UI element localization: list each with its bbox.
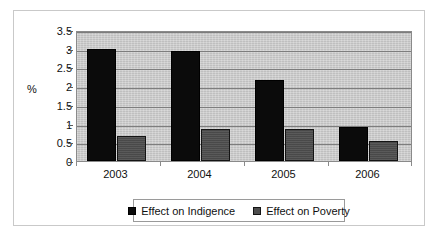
gridline: [77, 107, 411, 108]
y-tick-mark: [68, 162, 73, 163]
gridline: [77, 51, 411, 52]
chart-legend: Effect on IndigenceEffect on Poverty: [133, 199, 345, 222]
x-tick-label: 2006: [328, 168, 407, 181]
x-axis-tick-labels: 2003200420052006: [76, 168, 412, 184]
legend-label: Effect on Indigence: [141, 205, 235, 217]
x-tick-label: 2003: [76, 168, 155, 181]
bar: [201, 129, 230, 161]
y-tick-mark: [68, 50, 73, 51]
bar: [171, 51, 200, 161]
legend-entry[interactable]: Effect on Indigence: [128, 205, 235, 217]
bar: [339, 127, 368, 161]
gridline: [77, 32, 411, 33]
x-tick-label: 2004: [160, 168, 239, 181]
x-tick-mark: [76, 162, 77, 166]
chart-figure: % 00.511.522.533.5 2003200420052006 Effe…: [0, 0, 439, 241]
x-tick-mark: [244, 162, 245, 166]
legend-swatch-icon: [128, 207, 136, 215]
y-tick-mark: [68, 87, 73, 88]
y-tick-mark: [68, 31, 73, 32]
legend-label: Effect on Poverty: [266, 205, 350, 217]
y-axis-tick-marks: [0, 31, 76, 162]
plot-area: [76, 31, 412, 162]
bar: [285, 129, 314, 161]
y-tick-mark: [68, 125, 73, 126]
bar: [369, 141, 398, 161]
bar: [255, 80, 284, 161]
y-tick-mark: [68, 106, 73, 107]
bar: [87, 49, 116, 161]
gridline: [77, 88, 411, 89]
x-tick-mark: [411, 162, 412, 166]
y-tick-mark: [68, 143, 73, 144]
x-tick-label: 2005: [244, 168, 323, 181]
x-tick-mark: [160, 162, 161, 166]
legend-swatch-icon: [253, 207, 261, 215]
bar: [117, 136, 146, 161]
gridline: [77, 69, 411, 70]
legend-entry[interactable]: Effect on Poverty: [253, 205, 350, 217]
y-tick-mark: [68, 68, 73, 69]
x-tick-mark: [328, 162, 329, 166]
